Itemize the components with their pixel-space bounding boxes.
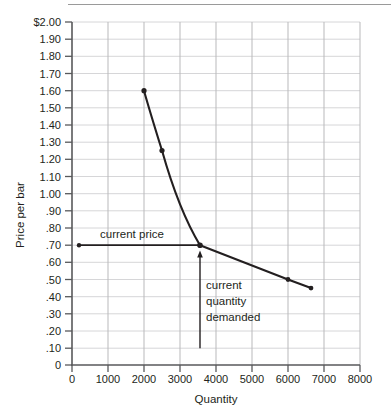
data-point <box>309 286 314 291</box>
x-tick-label: 2000 <box>132 373 156 385</box>
x-axis-ticks <box>72 365 360 372</box>
x-tick-label: 4000 <box>204 373 228 385</box>
y-tick-label: .40 <box>46 291 61 303</box>
y-tick-label: .70 <box>46 239 61 251</box>
x-tick-label: 5000 <box>240 373 264 385</box>
demand-curve-chart: $2.00 1.90 1.80 1.70 1.60 1.50 1.40 1.30… <box>0 0 391 417</box>
current-price-endpoint-dot <box>77 243 81 247</box>
x-tick-label: 1000 <box>96 373 120 385</box>
x-axis-title: Quantity <box>195 393 238 405</box>
y-tick-label: 1.90 <box>40 33 61 45</box>
y-tick-label: .60 <box>46 256 61 268</box>
x-axis-tick-labels: 0 1000 2000 3000 4000 5000 6000 7000 800… <box>69 373 372 385</box>
y-tick-label: 0 <box>55 359 61 371</box>
y-tick-label: .10 <box>46 342 61 354</box>
x-tick-label: 7000 <box>312 373 336 385</box>
x-tick-label: 8000 <box>348 373 372 385</box>
y-axis-ticks <box>65 22 72 365</box>
x-tick-label: 6000 <box>276 373 300 385</box>
data-point <box>141 88 146 93</box>
y-tick-label: 1.30 <box>40 136 61 148</box>
y-tick-label: 1.40 <box>40 119 61 131</box>
y-tick-label: 1.10 <box>40 171 61 183</box>
y-tick-label: 1.60 <box>40 85 61 97</box>
y-tick-label: 1.80 <box>40 50 61 62</box>
y-axis-tick-labels: $2.00 1.90 1.80 1.70 1.60 1.50 1.40 1.30… <box>33 16 61 371</box>
y-tick-label: 1.50 <box>40 102 61 114</box>
current-quantity-label-line-3: demanded <box>206 311 260 323</box>
x-tick-label: 0 <box>69 373 75 385</box>
current-price-label: current price <box>100 228 164 240</box>
y-tick-label: 1.20 <box>40 153 61 165</box>
y-tick-label: .50 <box>46 274 61 286</box>
data-point <box>286 277 291 282</box>
y-tick-label: .80 <box>46 222 61 234</box>
current-quantity-label-line-1: current <box>206 279 243 291</box>
y-tick-label: .30 <box>46 308 61 320</box>
chart-figure: $2.00 1.90 1.80 1.70 1.60 1.50 1.40 1.30… <box>0 0 391 417</box>
x-tick-label: 3000 <box>168 373 192 385</box>
current-quantity-label-line-2: quantity <box>206 295 247 307</box>
y-tick-label: .20 <box>46 325 61 337</box>
y-tick-label: $2.00 <box>33 16 61 28</box>
y-axis-title: Price per bar <box>14 182 26 248</box>
data-point <box>159 148 164 153</box>
y-tick-label: 1.00 <box>40 188 61 200</box>
y-tick-label: .90 <box>46 205 61 217</box>
y-tick-label: 1.70 <box>40 68 61 80</box>
